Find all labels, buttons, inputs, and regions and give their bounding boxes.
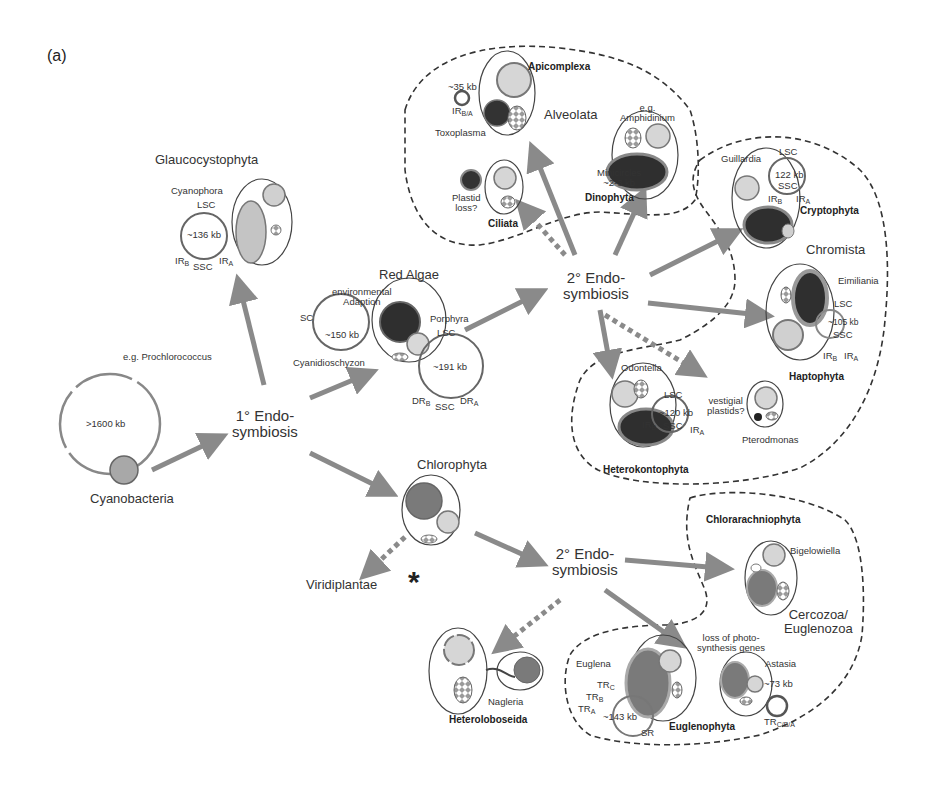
odontella-label: Odontella [621, 363, 662, 373]
astasia-label: Astasia [765, 659, 796, 669]
hapto-genome-size: ~105 kb [828, 318, 859, 327]
cyanobacteria-label: Cyanobacteria [90, 492, 174, 506]
glauco-genome-size: ~136 kb [187, 230, 221, 240]
chlorophyta-cell [402, 475, 460, 545]
heteroloboseida-label: Heteroloboseida [449, 715, 527, 726]
pterodmonas-label: Pterodmonas [742, 435, 799, 445]
astasia-genome-size: ~73 kb [764, 679, 793, 689]
cyanobacteria-genome-size: >1600 kb [86, 419, 125, 429]
red-sc-label: SC [300, 313, 313, 323]
red-algae-label: Red Algae [379, 268, 439, 282]
asterisk-marker: * [408, 566, 420, 598]
euglena-tra-label: TRA [578, 704, 595, 715]
toxoplasma-label: Toxoplasma [435, 128, 486, 138]
porphyra-drb-label: DRB [412, 396, 430, 407]
viridiplantae-label: Viridiplantae [306, 578, 377, 592]
porphyra-lsc-label: LSC [437, 328, 455, 338]
glauco-ira-label: IRA [219, 256, 233, 267]
crypto-ssc-label: SSC [778, 181, 798, 191]
haptophyta-label: Haptophyta [789, 372, 844, 383]
nagleria-label: Nagleria [488, 697, 523, 707]
guillardia-label: Guillardia [721, 154, 761, 164]
hetero-ssc-label: SSC [663, 421, 683, 431]
vestigial-plastids-label: vestigial plastids? [707, 396, 745, 416]
glaucocystophyta-label: Glaucocystophyta [155, 153, 258, 167]
alveolata-label: Alveolata [544, 108, 597, 122]
hapto-ssc-label: SSC [833, 330, 853, 340]
hetero-lsc-label: LSC [664, 390, 682, 400]
chlorarachniophyta-label: Chlorarachniophyta [706, 515, 800, 526]
heterokontophyta-label: Heterokontophyta [603, 465, 689, 476]
minicircles-label: Minicircles ~2-3 kb [597, 168, 641, 188]
hapto-lsc-label: LSC [834, 299, 852, 309]
cyanophora-label: Cyanophora [171, 186, 223, 196]
ciliata-label: Ciliata [488, 219, 518, 230]
cyanidioschyzon-label: Cyanidioschyzon [293, 358, 365, 368]
secondary-endosymbiosis-bottom-label: 2° Endo- symbiosis [552, 546, 618, 578]
pterodmonas-cell [747, 381, 783, 427]
cercozoa-euglenozoa-label: Cercozoa/ Euglenozoa [784, 608, 853, 635]
heterokontophyta-cell [610, 363, 688, 447]
euglena-trb-label: TRB [586, 692, 603, 703]
heterolobosea-cell [429, 628, 543, 714]
haptophyta-cell [766, 264, 844, 360]
secondary-endosymbiosis-top-label: 2° Endo- symbiosis [563, 270, 629, 302]
porphyra-dra-label: DRA [460, 396, 478, 407]
glauco-irb-label: IRB [175, 256, 189, 267]
hapto-irb-label: IRB [823, 351, 837, 362]
euglena-label: Euglena [576, 659, 611, 669]
porphyra-ssc-label: SSC [435, 402, 455, 412]
dinophyta-label: Dinophyta [585, 193, 634, 204]
hetero-genome-size: ~120 kb [659, 408, 693, 418]
euglenophyta-label: Euglenophyta [669, 722, 735, 733]
astasia-tr-label: TRC/B/A [764, 717, 795, 728]
amphidinium-label: e.g. Amphidinium [620, 103, 675, 123]
plastid-loss-label: Plastid loss? [452, 193, 481, 213]
panel-label: (a) [47, 48, 67, 65]
porphyra-label: Porphyra [430, 314, 469, 324]
hetero-ira-label: IRA [690, 425, 704, 436]
apicomplexa-genome-size: ~35 kb [448, 82, 477, 92]
crypto-ira-label: IRA [796, 194, 810, 205]
glauco-ssc-label: SSC [193, 262, 213, 272]
cyanobacteria-genome [60, 374, 160, 484]
crypto-genome-size: 122 kb [775, 170, 804, 180]
hetero-irb-label: IRB [642, 420, 656, 431]
loss-photosynthesis-label: loss of photo- synthesis genes [697, 633, 765, 653]
cyanobacteria-example: e.g. Prochlorococcus [123, 352, 212, 362]
diagram-canvas [0, 0, 925, 788]
eimiliania-label: Eimiliania [838, 276, 879, 286]
chromista-label: Chromista [806, 243, 865, 257]
cryptophyta-label: Cryptophyta [800, 206, 859, 217]
apicomplexa-cell [455, 51, 535, 135]
apicomplexa-ir-label: IRB/A [452, 106, 473, 117]
euglena-genome-size: ~143 kb [603, 712, 637, 722]
cyanidioschyzon-genome-size: ~150 kb [325, 330, 359, 340]
primary-endosymbiosis-label: 1° Endo- symbiosis [232, 408, 298, 440]
bigelowiella-label: Bigelowiella [790, 546, 840, 556]
glauco-lsc-label: LSC [197, 200, 215, 210]
environmental-adaption-label: environmental Adaption [332, 287, 392, 307]
hapto-ira-label: IRA [844, 351, 858, 362]
chlorophyta-label: Chlorophyta [417, 458, 487, 472]
euglena-sr-label: SR [641, 728, 654, 738]
crypto-lsc-label: LSC [779, 147, 797, 157]
crypto-irb-label: IRB [768, 194, 782, 205]
euglena-trc-label: TRC [597, 680, 615, 691]
porphyra-genome-size: ~191 kb [433, 362, 467, 372]
apicomplexa-label: Apicomplexa [528, 62, 590, 73]
